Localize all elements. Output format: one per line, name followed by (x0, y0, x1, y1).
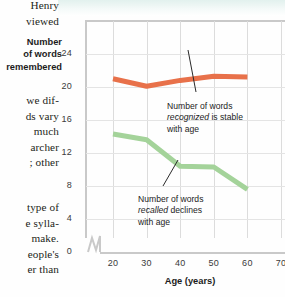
annotation-line: with age (167, 124, 243, 135)
chart-canvas (0, 0, 285, 297)
annotation-line-rest: is stable (209, 112, 243, 122)
annotation-line: Number of words (138, 194, 203, 205)
data-line-recalled (113, 134, 247, 189)
annotation-line-rest: declines (168, 205, 202, 215)
annotation-line: recalled declines (138, 205, 203, 216)
annotation-recalled: Number of words recalled declines with a… (138, 194, 203, 228)
annotation-line: Number of words (167, 101, 243, 112)
annotation-line: with age (138, 217, 203, 228)
data-line-recognized (113, 76, 247, 86)
leader-line-recalled (163, 160, 178, 186)
x-axis-title: Age (years) (110, 276, 270, 286)
annotation-line: recognized is stable (167, 112, 243, 123)
annotation-emphasis: recalled (138, 205, 168, 215)
figure-page: Henry viewed we dif- ds vary much archer… (0, 0, 285, 297)
annotation-recognized: Number of words recognized is stable wit… (167, 101, 243, 135)
annotation-emphasis: recognized (167, 112, 209, 122)
leader-line-recognized (188, 50, 196, 92)
x-axis-break-symbol (88, 236, 100, 252)
